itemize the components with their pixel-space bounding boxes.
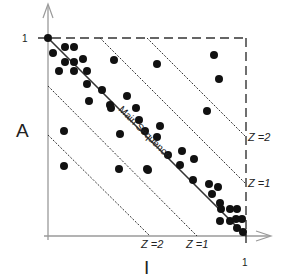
data-point xyxy=(132,104,140,112)
data-point xyxy=(238,215,246,223)
data-point xyxy=(70,67,78,75)
data-point xyxy=(205,180,213,188)
data-point xyxy=(70,58,78,66)
main-sequence-label: Main Sequence xyxy=(117,104,174,161)
data-point xyxy=(98,86,106,94)
zone-label: Z =1 xyxy=(185,238,208,250)
y-tick-label-1: 1 xyxy=(22,33,28,44)
data-point xyxy=(83,80,91,88)
data-point xyxy=(55,67,63,75)
data-point xyxy=(110,56,118,64)
x-axis-label: I xyxy=(144,257,149,277)
data-point xyxy=(44,34,52,42)
zone-line-lower-z2 xyxy=(48,135,150,236)
data-point xyxy=(226,205,234,213)
y-axis-label: A xyxy=(16,120,29,141)
data-point xyxy=(107,104,115,112)
data-point xyxy=(210,51,218,59)
data-point xyxy=(176,161,184,169)
zone-line-upper-z2 xyxy=(147,38,246,137)
diagram-canvas: A I 1 1 Main Sequence Z =2Z =1Z =2Z =1 xyxy=(0,0,285,277)
zone-label: Z =1 xyxy=(247,177,270,189)
zone-label: Z =2 xyxy=(247,131,270,143)
data-point xyxy=(49,49,57,57)
data-point xyxy=(214,183,222,191)
data-point xyxy=(189,176,197,184)
data-point xyxy=(203,107,211,115)
data-point xyxy=(153,60,161,68)
data-point xyxy=(115,165,123,173)
data-point xyxy=(233,205,241,213)
abstractness-instability-diagram: A I 1 1 Main Sequence Z =2Z =1Z =2Z =1 xyxy=(0,0,285,277)
data-point xyxy=(216,217,224,225)
data-point xyxy=(208,190,216,198)
data-point xyxy=(190,155,198,163)
data-point xyxy=(123,92,131,100)
data-point xyxy=(85,97,93,105)
data-point xyxy=(70,43,78,51)
zone-label: Z =2 xyxy=(140,238,163,250)
data-point xyxy=(116,130,124,138)
x-tick-label-1: 1 xyxy=(242,257,248,268)
unit-box xyxy=(38,38,246,244)
data-point xyxy=(60,162,68,170)
data-point xyxy=(239,228,247,236)
data-point xyxy=(79,55,87,63)
data-point xyxy=(178,147,186,155)
data-point xyxy=(60,127,68,135)
data-point xyxy=(144,166,152,174)
data-point xyxy=(217,205,225,213)
data-point xyxy=(61,58,69,66)
data-point xyxy=(156,122,164,130)
data-point xyxy=(83,67,91,75)
data-point xyxy=(61,43,69,51)
data-point xyxy=(215,75,223,83)
